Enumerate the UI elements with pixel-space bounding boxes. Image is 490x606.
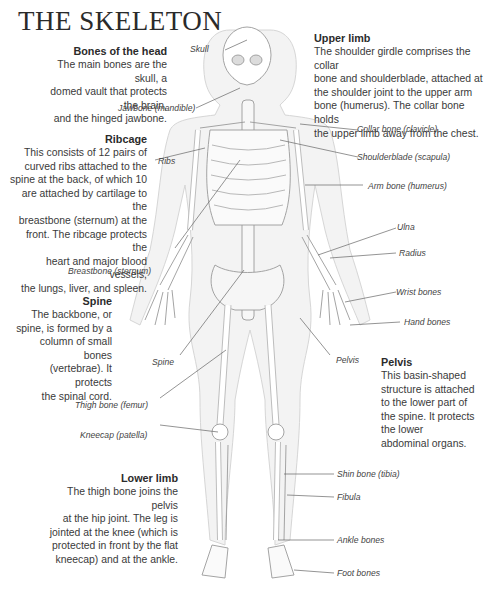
section-pelvis-heading: Pelvis — [381, 355, 490, 369]
section-head-heading: Bones of the head — [40, 44, 167, 58]
section-head-line: and the hinged jawbone. — [40, 112, 167, 126]
label-pelvis: Pelvis — [336, 355, 359, 365]
section-upper-limb-line: the shoulder joint to the upper arm — [314, 86, 490, 100]
label-collar-bone: Collar bone (clavicle) — [357, 124, 437, 134]
label-arm-bone: Arm bone (humerus) — [368, 181, 447, 191]
section-spine-line: column of small bones — [10, 335, 112, 362]
section-spine-line: (vertebrae). It protects — [10, 362, 112, 389]
section-spine: Spine The backbone, or spine, is formed … — [10, 294, 112, 403]
section-head-line: The main bones are the skull, a — [40, 58, 167, 85]
label-shoulderblade: Shoulderblade (scapula) — [357, 152, 450, 162]
label-kneecap: Kneecap (patella) — [80, 430, 147, 440]
section-pelvis-line: the spine. It protects — [381, 410, 490, 424]
section-ribcage-heading: Ribcage — [10, 132, 147, 146]
section-head: Bones of the head The main bones are the… — [40, 44, 167, 126]
label-spine: Spine — [152, 357, 174, 367]
section-lower-limb-heading: Lower limb — [40, 471, 178, 485]
section-pelvis-line: to the lower part of — [381, 396, 490, 410]
label-ribs: Ribs — [158, 156, 175, 166]
section-lower-limb-line: jointed at the knee (which is — [40, 526, 178, 540]
section-upper-limb-line: The shoulder girdle comprises the collar — [314, 45, 490, 72]
section-ribcage-line: This consists of 12 pairs of — [10, 146, 147, 160]
section-upper-limb-line: bone and shoulderblade, attached at — [314, 72, 490, 86]
section-upper-limb-heading: Upper limb — [314, 31, 490, 45]
label-fibula: Fibula — [337, 492, 360, 502]
section-lower-limb-line: kneecap) and at the ankle. — [40, 553, 178, 567]
section-lower-limb-line: protected in front by the flat — [40, 539, 178, 553]
section-lower-limb: Lower limb The thigh bone joins the pelv… — [40, 471, 178, 567]
section-ribcage-line: breastbone (sternum) at the — [10, 214, 147, 228]
section-pelvis: Pelvis This basin-shaped structure is at… — [381, 355, 490, 451]
label-shin-bone: Shin bone (tibia) — [337, 469, 400, 479]
section-pelvis-line: abdominal organs. — [381, 437, 490, 451]
label-skull: Skull — [190, 44, 209, 54]
section-pelvis-line: This basin-shaped — [381, 369, 490, 383]
label-breastbone: Breastbone (sternum) — [68, 266, 151, 276]
label-hand-bones: Hand bones — [404, 317, 450, 327]
section-upper-limb-line: bone (humerus). The collar bone holds — [314, 99, 490, 126]
section-lower-limb-line: The thigh bone joins the pelvis — [40, 485, 178, 512]
label-ulna: Ulna — [397, 222, 415, 232]
label-foot-bones: Foot bones — [337, 568, 380, 578]
section-spine-line: The backbone, or — [10, 308, 112, 322]
section-pelvis-line: structure is attached — [381, 383, 490, 397]
label-jawbone: Jawbone (mandible) — [118, 103, 195, 113]
section-spine-heading: Spine — [10, 294, 112, 308]
label-wrist-bones: Wrist bones — [396, 287, 441, 297]
section-lower-limb-line: at the hip joint. The leg is — [40, 512, 178, 526]
section-ribcage-line: curved ribs attached to the — [10, 160, 147, 174]
section-ribcage-line: spine at the back, of which 10 — [10, 173, 147, 187]
section-ribcage-line: are attached by cartilage to the — [10, 187, 147, 214]
label-ankle-bones: Ankle bones — [337, 535, 384, 545]
section-spine-line: spine, is formed by a — [10, 322, 112, 336]
label-thigh-bone: Thigh bone (femur) — [75, 400, 148, 410]
label-radius: Radius — [399, 248, 426, 258]
section-pelvis-line: the lower — [381, 423, 490, 437]
section-ribcage-line: front. The ribcage protects the — [10, 228, 147, 255]
